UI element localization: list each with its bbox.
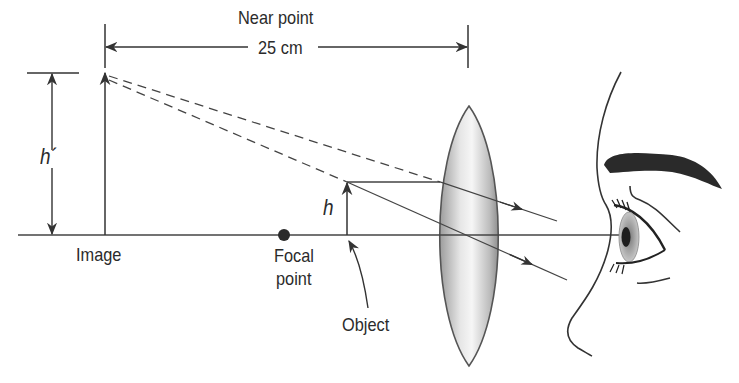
focal-point-label-line1: Focal [274,245,314,266]
distance-label: 25 cm [258,37,303,58]
focal-point-label-line2: point [276,268,311,289]
cheek-line [637,278,670,283]
object-label: Object [342,314,389,335]
virtual-ray-lower [109,80,347,182]
ray-central-arrow [510,255,532,265]
pupil-icon [622,227,631,247]
object-height-label: h [323,197,334,218]
focal-point-dot [278,229,290,241]
near-point-label: Near point [238,7,313,28]
lower-lashes [610,264,624,274]
virtual-ray-upper [109,76,440,182]
image-label: Image [76,244,121,265]
eyebrow [604,153,722,189]
object-leader-arrow [349,241,368,308]
face-profile [568,72,621,356]
ray-parallel-arrow [500,202,522,209]
image-height-label: h´ [40,146,57,167]
